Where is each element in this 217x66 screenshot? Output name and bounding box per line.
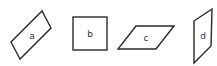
shape-b: b [73,17,107,50]
shape-d: d [194,9,212,63]
shape-b-label: b [87,29,93,39]
shape-c: c [118,26,174,49]
shape-a: a [11,11,51,59]
shape-a-label: a [29,31,35,41]
shape-c-label: c [144,33,149,43]
shape-d-label: d [200,31,206,41]
shapes-diagram: a b c d [0,0,217,66]
